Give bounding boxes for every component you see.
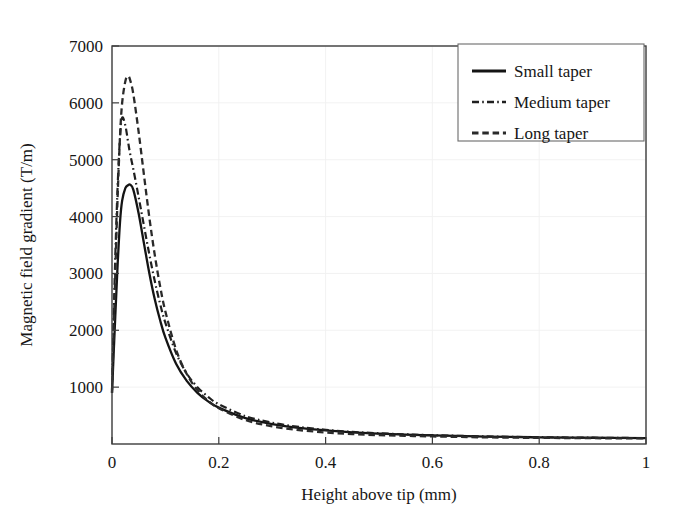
y-tick-label: 4000: [69, 208, 103, 227]
y-tick-label: 3000: [69, 264, 103, 283]
x-axis-title: Height above tip (mm): [301, 485, 456, 504]
x-tick-label: 0.4: [315, 453, 337, 472]
x-tick-label: 0.8: [529, 453, 550, 472]
y-axis-title: Magnetic field gradient (T/m): [17, 143, 36, 346]
y-tick-label: 5000: [69, 151, 103, 170]
y-tick-label: 2000: [69, 321, 103, 340]
legend-item-label: Long taper: [514, 124, 588, 143]
chart-legend[interactable]: Small taperMedium taperLong taper: [458, 44, 644, 143]
x-tick-label: 0.2: [208, 453, 229, 472]
y-tick-label: 6000: [69, 94, 103, 113]
y-tick-label: 1000: [69, 378, 103, 397]
y-tick-label: 7000: [69, 37, 103, 56]
x-tick-label: 1: [642, 453, 651, 472]
magnetic-field-gradient-line-chart: 00.20.40.60.81 1000200030004000500060007…: [0, 0, 683, 522]
chart-figure: 00.20.40.60.81 1000200030004000500060007…: [0, 0, 683, 522]
x-tick-label: 0: [108, 453, 117, 472]
x-tick-label: 0.6: [422, 453, 443, 472]
legend-item-label: Medium taper: [514, 93, 610, 112]
legend-item-label: Small taper: [514, 62, 592, 81]
